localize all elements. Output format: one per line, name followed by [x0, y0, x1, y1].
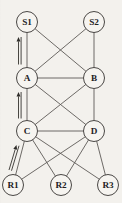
node-b[interactable]: B — [84, 68, 105, 89]
node-s1-label: S1 — [22, 17, 32, 27]
node-r2-label: R2 — [56, 180, 67, 190]
arrow-annotations-group — [9, 37, 21, 171]
arrow-r1-c-head — [13, 145, 17, 150]
node-a-label: A — [24, 73, 31, 83]
edge-r2-c — [33, 140, 56, 176]
node-a[interactable]: A — [17, 68, 38, 89]
edge-r1-c — [16, 141, 25, 175]
node-c-label: C — [24, 126, 30, 136]
arrow-a-c — [17, 92, 22, 119]
graph-diagram-canvas: S1S2ABCDR1R2R3 — [0, 0, 122, 203]
edge-r3-d — [97, 141, 106, 175]
edges-group — [16, 29, 106, 179]
node-s2-label: S2 — [89, 17, 99, 27]
node-r2[interactable]: R2 — [51, 175, 72, 196]
arrow-a-c-head — [17, 92, 21, 96]
nodes-group: S1S2ABCDR1R2R3 — [3, 12, 119, 196]
edge-r3-c — [36, 137, 100, 179]
node-r3[interactable]: R3 — [98, 175, 119, 196]
node-c[interactable]: C — [17, 121, 38, 142]
node-s2[interactable]: S2 — [84, 12, 105, 33]
node-d-label: D — [91, 126, 98, 136]
node-r1-label: R1 — [8, 180, 19, 190]
arrow-s1-a-head — [17, 37, 21, 41]
node-b-label: B — [91, 73, 97, 83]
node-r1[interactable]: R1 — [3, 175, 24, 196]
graph-svg: S1S2ABCDR1R2R3 — [0, 0, 122, 203]
arrow-s1-a — [17, 37, 22, 65]
arrow-r1-c-shaft — [9, 149, 15, 170]
node-d[interactable]: D — [84, 121, 105, 142]
node-r3-label: R3 — [103, 180, 114, 190]
edge-r2-d — [66, 140, 88, 176]
node-s1[interactable]: S1 — [17, 12, 38, 33]
